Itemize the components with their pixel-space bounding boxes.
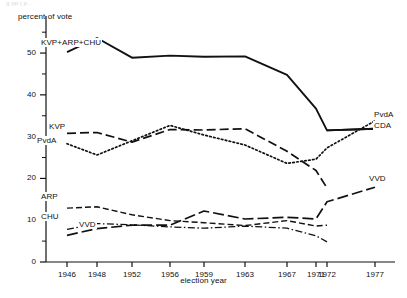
y-tick-label: 10 (16, 215, 36, 224)
x-tick-label: 1952 (115, 270, 149, 279)
series-line-pvda (67, 121, 375, 164)
x-tick-label: 1963 (228, 270, 262, 279)
series-label-cda-right: CDA (373, 121, 392, 130)
x-tick-label: 1977 (358, 270, 392, 279)
y-tick-label: 20 (16, 173, 36, 182)
series-label-pvda-right: PvdA (373, 110, 395, 119)
x-tick-label: 1972 (310, 270, 344, 279)
x-tick-label: 1959 (187, 270, 221, 279)
y-tick-label: 50 (16, 48, 36, 57)
x-tick-label: 1946 (50, 270, 84, 279)
series-label-pvda-left: PvdA (36, 136, 58, 145)
x-tick-label: 1948 (80, 270, 114, 279)
series-line-arp (67, 207, 327, 226)
series-line-kvp-arp-chu (67, 38, 375, 130)
series-line-chu (67, 224, 327, 242)
series-line-vvd (67, 187, 375, 235)
x-tick-label: 1956 (153, 270, 187, 279)
series-line-cda (327, 129, 375, 131)
y-tick-label: 0 (16, 257, 36, 266)
series-label-kvp: KVP (48, 122, 66, 131)
election-line-chart: g pp j p , percent of vote election year… (0, 0, 407, 298)
series-label-vvd-right: VVD (368, 174, 387, 183)
axes-group (40, 16, 395, 267)
series-label-arp: ARP (40, 192, 59, 201)
y-tick-label: 30 (16, 132, 36, 141)
series-label-kvp-arp-chu: KVP+ARP+CHU (40, 38, 102, 47)
series-line-kvp (67, 129, 327, 188)
data-lines-group (67, 38, 375, 242)
y-tick-label: 40 (16, 90, 36, 99)
series-label-chu: CHU (40, 212, 60, 221)
series-label-vvd-left: VVD (78, 220, 97, 229)
